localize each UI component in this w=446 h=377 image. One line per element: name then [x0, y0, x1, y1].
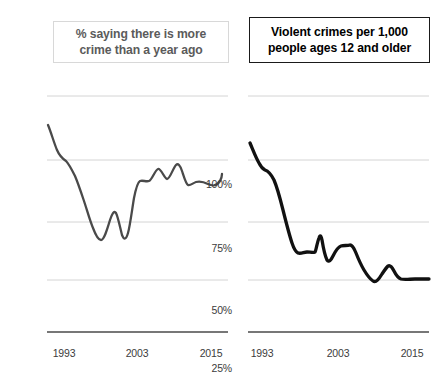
- right-xtick-2015: 2015: [401, 347, 424, 359]
- left-ytick-25: 25%: [190, 362, 232, 374]
- left-chart-plot-area: [0, 88, 232, 338]
- right-xtick-1993: 1993: [251, 347, 274, 359]
- left-ytick-100: 100%: [190, 178, 232, 190]
- left-xtick-1993: 1993: [53, 347, 76, 359]
- right-chart-plot-area: [240, 88, 446, 338]
- left-chart-panel: 100% 75% 50% 25% 0: [0, 88, 232, 338]
- two-panel-line-chart-figure: % saying there is more crime than a year…: [0, 0, 446, 377]
- left-ytick-50: 50%: [190, 304, 232, 316]
- left-chart-title-text: % saying there is more crime than a year…: [76, 26, 207, 59]
- left-xtick-2015: 2015: [200, 347, 223, 359]
- right-chart-title-text: Violent crimes per 1,000 people ages 12 …: [268, 24, 411, 57]
- right-chart-gridlines: [248, 96, 429, 280]
- right-chart-title-box: Violent crimes per 1,000 people ages 12 …: [249, 17, 430, 63]
- right-chart-panel: [240, 88, 446, 338]
- right-chart-series-line: [250, 143, 429, 282]
- left-chart-title-box: % saying there is more crime than a year…: [53, 21, 229, 63]
- left-xtick-2003: 2003: [126, 347, 149, 359]
- left-ytick-75: 75%: [190, 242, 232, 254]
- right-xtick-2003: 2003: [327, 347, 350, 359]
